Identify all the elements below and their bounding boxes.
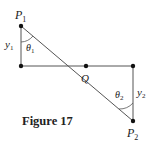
point-p2-dot [131, 119, 135, 123]
label-theta2: θ2 [115, 89, 124, 102]
diagram-svg: P1 y1 θ1 Q θ2 y2 P2 Figure 17 [0, 0, 154, 146]
label-q: Q [81, 72, 89, 84]
angle-arc-theta2 [119, 103, 133, 109]
corner-right-dot [131, 64, 135, 68]
label-y1: y1 [4, 38, 14, 52]
label-y2: y2 [136, 86, 146, 100]
label-p2: P2 [126, 126, 138, 142]
figure-caption: Figure 17 [22, 114, 73, 128]
corner-left-dot [19, 64, 23, 68]
label-p1: P1 [14, 8, 26, 24]
point-p1-dot [19, 24, 23, 28]
figure-17-diagram: P1 y1 θ1 Q θ2 y2 P2 Figure 17 [0, 0, 154, 146]
label-theta1: θ1 [26, 42, 35, 55]
point-q-dot [84, 64, 88, 68]
path-p1-p2 [21, 26, 133, 121]
